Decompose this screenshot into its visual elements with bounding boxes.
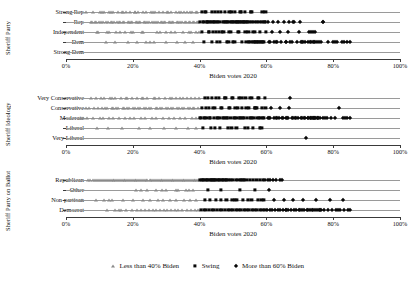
data-point-square [225, 198, 228, 201]
x-axis-tick-label: 40% [194, 149, 206, 155]
data-point-triangle [79, 117, 83, 120]
data-point-square [230, 20, 233, 23]
data-point-triangle [175, 41, 179, 44]
data-point-triangle [157, 97, 161, 100]
data-point-square [208, 116, 211, 119]
data-point-square [246, 126, 249, 129]
data-point-triangle [141, 31, 145, 34]
data-point-square [257, 40, 260, 43]
data-point-triangle [153, 97, 157, 100]
panel-y-axis-title-1: Sheriff Party [0, 6, 14, 70]
data-point-triangle [129, 31, 133, 34]
data-point-triangle [91, 117, 95, 120]
data-point-triangle [130, 209, 134, 212]
data-point-triangle [118, 31, 122, 34]
data-point-diamond [304, 136, 308, 140]
data-point-triangle [170, 97, 174, 100]
data-point-triangle [160, 189, 164, 192]
panel-y-axis-title-2: Sheriff Ideology [0, 92, 14, 156]
data-point-triangle [144, 41, 148, 44]
data-point-square [220, 198, 223, 201]
data-point-triangle [174, 97, 178, 100]
y-axis-tick [63, 98, 66, 99]
data-point-diamond [282, 198, 286, 202]
data-point-square [231, 198, 234, 201]
data-point-triangle [119, 97, 123, 100]
panel-plot-area-2 [66, 92, 400, 146]
data-point-diamond [328, 198, 332, 202]
data-point-triangle [182, 199, 186, 202]
data-point-triangle [140, 97, 144, 100]
data-point-triangle [106, 127, 110, 130]
data-point-triangle [125, 97, 129, 100]
panel-y-axis-title-3: Sheriff Party on Ballot [0, 174, 14, 228]
data-point-diamond [332, 116, 336, 120]
data-point-diamond [272, 198, 276, 202]
chart-panel-3: Sheriff Party on BallotRepublicanOtherNo… [0, 170, 414, 248]
scatter-chart-figure: Sheriff PartyStrong RepRepIndependentDem… [0, 0, 414, 286]
data-point-triangle [133, 11, 137, 14]
data-point-triangle [84, 11, 88, 14]
data-point-square [223, 10, 226, 13]
data-point-square [211, 106, 214, 109]
data-point-triangle [164, 31, 168, 34]
data-point-square [213, 126, 216, 129]
data-point-square [209, 20, 212, 23]
data-point-square [223, 96, 226, 99]
data-point-diamond [326, 40, 330, 44]
data-point-square [248, 96, 251, 99]
data-point-square [246, 198, 249, 201]
data-point-square [261, 116, 264, 119]
data-point-triangle [94, 199, 98, 202]
data-point-triangle [161, 199, 165, 202]
data-point-square [225, 116, 228, 119]
data-point-square [210, 96, 213, 99]
x-axis-tick-label: 60% [261, 149, 273, 155]
data-point-square [238, 20, 241, 23]
data-point-triangle [107, 31, 111, 34]
data-point-triangle [135, 97, 139, 100]
data-point-square [201, 126, 204, 129]
data-point-square [252, 40, 255, 43]
data-point-square [253, 188, 256, 191]
data-point-square [258, 126, 261, 129]
x-axis-tick-label: 80% [327, 63, 339, 69]
data-point-square [236, 106, 239, 109]
data-point-triangle [149, 107, 153, 110]
legend-label: More than 60% Biden [242, 262, 304, 270]
data-point-triangle [188, 11, 192, 14]
y-axis-tick [63, 42, 66, 43]
data-point-square [207, 30, 210, 33]
data-point-triangle [127, 107, 131, 110]
data-point-triangle [183, 41, 187, 44]
data-point-square [212, 30, 215, 33]
data-point-triangle [169, 11, 173, 14]
data-point-square [253, 30, 256, 33]
data-point-diamond [269, 106, 273, 110]
data-point-triangle [123, 117, 127, 120]
data-point-square [238, 116, 241, 119]
data-point-triangle [107, 199, 111, 202]
data-point-diamond [276, 20, 280, 24]
data-point-triangle [91, 11, 95, 14]
data-point-diamond [348, 208, 352, 212]
data-point-square [246, 20, 249, 23]
legend-square-icon [194, 264, 197, 267]
data-point-square [264, 106, 267, 109]
x-axis-tick-label: 80% [327, 221, 339, 227]
data-point-diamond [279, 40, 283, 44]
data-point-square [233, 116, 236, 119]
data-point-triangle [121, 199, 125, 202]
data-point-square [241, 178, 244, 181]
y-axis-tick [63, 200, 66, 201]
legend-marker-square-icon [192, 263, 198, 269]
data-point-triangle [100, 11, 104, 14]
data-point-triangle [158, 31, 162, 34]
data-point-square [249, 40, 252, 43]
data-point-triangle [171, 107, 175, 110]
x-axis-title-3: Biden votes 2020 [209, 231, 257, 238]
data-point-square [235, 198, 238, 201]
data-point-triangle [193, 97, 197, 100]
y-axis-tick [63, 22, 66, 23]
legend-label: Less than 40% Biden [119, 262, 179, 270]
